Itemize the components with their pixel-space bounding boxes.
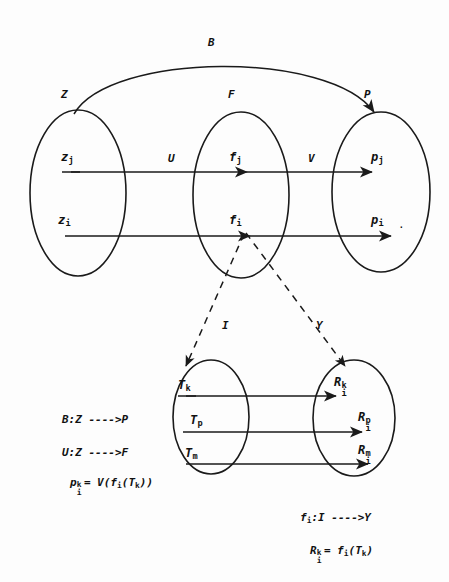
elem-sub: m [192,451,197,461]
formula-u-map: U:Z ---->F [62,447,128,458]
elem-base: R [358,410,365,424]
label-element-fi: fi [229,214,242,228]
label-set-z: Z [61,89,68,100]
label-element-fj: fj [229,151,242,165]
label-map-b: B [208,37,215,48]
formula-fi-map: fi:I ---->Y [300,512,371,525]
label-element-tk: Tk [178,379,191,393]
formula-rhs-end: )) [140,476,153,489]
elem-base: R [334,375,341,389]
label-element-tm: Tm [185,447,198,461]
formula-lhs-base: R [310,544,317,557]
label-element-tp: Tp [190,414,203,428]
label-map-v: V [308,153,315,164]
label-element-pj: pj [371,151,384,165]
label-set-p: P [364,89,371,100]
formula-lhs-base: p [70,476,77,489]
elem-base: R [358,443,365,457]
stray-dot: . [398,218,405,231]
formula-text: :I ---->Y [311,511,371,524]
elem-sub: j [68,155,73,165]
dashed-line-to-set-i [186,234,244,366]
elem-sub: k [185,383,190,393]
math-diagram: B Z F P U V zj fj pj zi fi pi . I Y Tk T… [0,0,449,582]
formula-rhs-mid: (T [349,544,362,557]
formula-b-map: B:Z ---->P [62,414,128,425]
formula-r-definition: Rki= fi(Tk) [310,545,373,558]
label-element-rp: Rpi [358,411,373,423]
formula-base: f [300,511,307,524]
elem-sub: i [341,389,346,398]
elem-sub: i [378,218,383,228]
elem-sub: i [236,218,241,228]
ellipse-set-f [193,112,289,278]
label-element-pi: pi [371,214,384,228]
formula-rhs-end: ) [367,544,374,557]
elem-sub: j [378,155,383,165]
formula-lhs-sub: i [77,489,82,497]
elem-sub: i [65,218,70,228]
elem-sub: i [365,457,370,466]
elem-sub: p [197,418,202,428]
label-map-u: U [168,153,175,164]
dashed-line-to-set-y [246,233,345,366]
label-set-i: I [222,320,229,331]
formula-rhs: = V(f [84,476,117,489]
formula-p-definition: pki= V(fi(Tk)) [70,477,153,490]
label-element-rk: Rki [334,376,349,388]
ellipse-set-p [332,112,430,272]
ellipse-set-y [313,360,395,476]
elem-sub: i [365,424,370,433]
label-element-rm: Rmi [358,444,373,456]
label-element-zj: zj [61,151,74,165]
label-set-f: F [228,89,235,100]
ellipse-set-z [30,110,126,276]
label-set-y: Y [316,320,323,331]
formula-rhs-mid: (T [122,476,135,489]
elem-sub: j [236,155,241,165]
formula-rhs: = f [324,544,344,557]
label-element-zi: zi [58,214,71,228]
formula-lhs-sub: i [317,557,322,565]
arc-map-b [74,66,374,114]
